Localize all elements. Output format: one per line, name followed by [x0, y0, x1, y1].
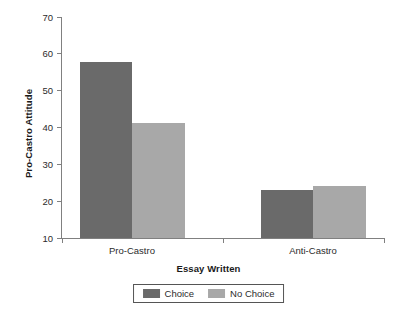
plot-area: 10 20 30 40 50 60 70 [61, 17, 385, 239]
y-tick-label: 50 [42, 85, 53, 96]
y-tick-label: 40 [42, 122, 53, 133]
legend: Choice No Choice [133, 284, 285, 303]
y-axis-title: Pro-Castro Attitude [23, 54, 34, 214]
x-category-label-pro-castro: Pro-Castro [109, 245, 155, 256]
x-category-label-anti-castro: Anti-Castro [289, 245, 337, 256]
legend-label-no-choice: No Choice [230, 288, 274, 299]
y-tick-label: 60 [42, 48, 53, 59]
legend-item-choice[interactable]: Choice [143, 288, 195, 299]
y-tick-mark [57, 17, 62, 18]
x-tick-mark [62, 238, 63, 243]
legend-item-no-choice[interactable]: No Choice [208, 288, 274, 299]
x-axis-title: Essay Written [0, 263, 417, 274]
bar-no-choice-anti-castro[interactable] [313, 186, 366, 238]
x-tick-mark [384, 238, 385, 243]
y-tick-mark [57, 53, 62, 54]
legend-swatch-choice [143, 289, 160, 298]
y-tick-mark [57, 164, 62, 165]
bar-no-choice-pro-castro[interactable] [132, 123, 185, 238]
y-axis-line [61, 17, 62, 239]
y-tick-mark [57, 127, 62, 128]
y-tick-mark [57, 90, 62, 91]
y-tick-label: 20 [42, 196, 53, 207]
x-tick-mark [223, 238, 224, 243]
legend-swatch-no-choice [208, 289, 225, 298]
bar-choice-pro-castro[interactable] [80, 62, 132, 238]
bar-chart-figure: Pro-Castro Attitude 10 20 30 40 50 60 [0, 0, 417, 321]
legend-label-choice: Choice [165, 288, 195, 299]
y-tick-label: 10 [42, 233, 53, 244]
y-tick-mark [57, 201, 62, 202]
y-tick-label: 70 [42, 12, 53, 23]
bar-choice-anti-castro[interactable] [261, 190, 313, 238]
y-tick-label: 30 [42, 159, 53, 170]
